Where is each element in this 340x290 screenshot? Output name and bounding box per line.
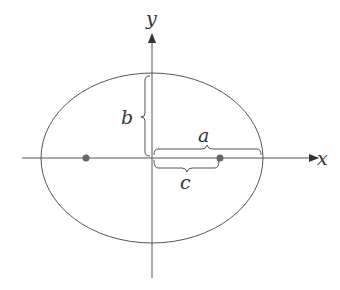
label-a: a [198, 124, 209, 146]
ellipse-diagram: y x b a c [0, 0, 340, 290]
focus-left [83, 155, 90, 162]
label-b: b [121, 106, 133, 128]
label-x: x [317, 147, 328, 169]
focus-right [217, 155, 224, 162]
brace-b [141, 76, 150, 156]
brace-a [154, 145, 261, 155]
label-y: y [145, 7, 157, 29]
label-c: c [180, 171, 191, 193]
